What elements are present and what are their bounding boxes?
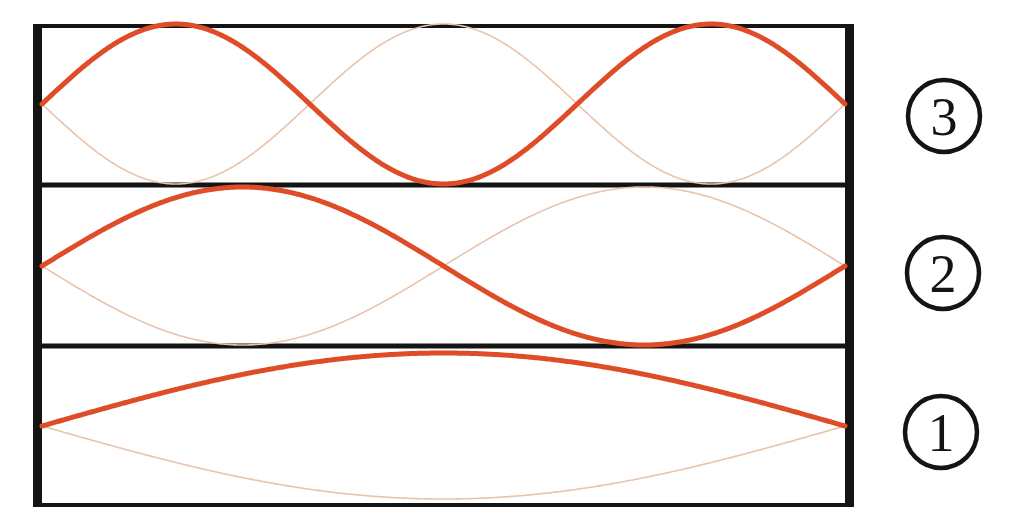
standing-wave-figure: 3 2 1 (0, 0, 1010, 532)
box-wall-bottom (33, 503, 854, 507)
level-label-3[interactable]: 3 (908, 80, 980, 152)
level-label-2[interactable]: 2 (907, 237, 979, 309)
level-number-1: 1 (928, 403, 955, 463)
panel-divider-2 (33, 344, 854, 349)
level-labels: 3 2 1 (905, 80, 980, 468)
level-number-3: 3 (931, 87, 958, 147)
figure-stage: 3 2 1 (0, 0, 1010, 532)
level-label-1[interactable]: 1 (905, 396, 977, 468)
level-number-2: 2 (930, 244, 957, 304)
